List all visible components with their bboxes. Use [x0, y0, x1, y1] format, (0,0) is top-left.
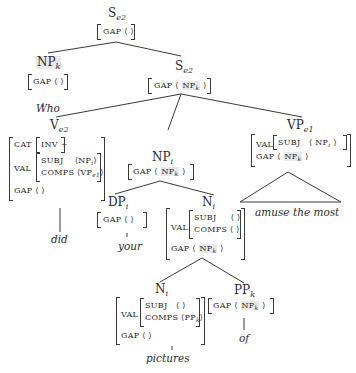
avm-bracket-left [128, 164, 132, 180]
vp-gap: GAP ⟨ NPk ⟩ [256, 151, 309, 162]
v-comps: COMPS ⟨VPe1⟩ [41, 167, 104, 178]
word-pictures: pictures [146, 352, 190, 364]
words-amuse-the-most: amuse the most [255, 206, 339, 218]
word-did: did [51, 233, 68, 245]
word-your: your [118, 240, 142, 252]
node-np-who-label: NPk [36, 56, 61, 69]
avm-bracket-left [97, 212, 101, 228]
avm-bracket-right [201, 297, 205, 345]
vp-subj: SUBJ ⟨ NPi ⟩ [278, 137, 337, 148]
n-low-comps: COMPS ⟨PPk⟩ [145, 312, 203, 323]
node-pp-label: PPk [234, 284, 255, 297]
avm-bracket-right [270, 298, 274, 314]
avm-bracket-left [9, 137, 13, 201]
word-who: Who [36, 102, 60, 114]
avm-bracket-right [190, 164, 194, 180]
avm-bracket-right [196, 298, 200, 327]
avm-bracket-left [36, 153, 40, 182]
avm-bracket-left [251, 134, 255, 167]
v-subj: SUBJ ⟨NPi⟩ [41, 155, 97, 166]
avm-bracket-left [140, 298, 144, 327]
node-dp-gap: GAP ⟨ ⟩ [103, 214, 134, 225]
node-dp-label: DPi [108, 196, 128, 209]
node-s-inner-label: Se2 [175, 60, 193, 73]
node-s-root-gap: GAP ⟨ ⟩ [103, 26, 134, 37]
n-low-val-feature: VAL [121, 309, 138, 320]
node-np-i-gap: GAP ⟨ NPk ⟩ [133, 166, 186, 177]
avm-bracket-left [148, 78, 152, 94]
avm-bracket-left [36, 137, 40, 153]
vp-val-feature: VAL [256, 139, 273, 150]
avm-bracket-left [208, 298, 212, 314]
node-pp-gap: GAP ⟨ NPk ⟩ [213, 300, 266, 311]
avm-bracket-right [101, 137, 105, 201]
n-bar-val-feature: VAL [171, 222, 188, 233]
n-low-subj: SUBJ ⟨ ⟩ [145, 300, 186, 311]
avm-bracket-right [143, 212, 147, 228]
v-gap: GAP ⟨ ⟩ [14, 185, 45, 196]
node-np-i-label: NPi [152, 151, 173, 164]
avm-bracket-right [241, 208, 245, 260]
node-s-root-label: Se2 [108, 7, 126, 20]
avm-bracket-right [61, 137, 65, 153]
avm-bracket-left [97, 24, 101, 40]
avm-bracket-right [347, 134, 351, 167]
n-bar-subj: SUBJ ⟨ ⟩ [194, 212, 240, 223]
node-vp-label: VPe1 [287, 119, 314, 132]
node-s-inner-gap: GAP ⟨ NPk ⟩ [154, 80, 207, 91]
avm-bracket-left [28, 74, 32, 90]
v-val-feature: VAL [14, 163, 31, 174]
node-n-bar-label: Ni [202, 196, 215, 209]
avm-bracket-left [189, 210, 193, 239]
avm-bracket-right [64, 74, 68, 90]
v-cat-feature: CAT [14, 139, 32, 150]
n-low-gap: GAP ⟨ ⟩ [121, 330, 152, 341]
n-bar-gap: GAP ⟨ NPk ⟩ [171, 243, 224, 254]
n-bar-comps: COMPS ⟨ ⟩ [194, 224, 240, 235]
word-of: of [239, 332, 249, 344]
avm-bracket-right [131, 24, 135, 40]
avm-bracket-left [116, 297, 120, 345]
node-n-low-label: Ni [155, 283, 168, 296]
avm-bracket-left [166, 208, 170, 260]
node-np-who-gap: GAP ⟨ ⟩ [33, 76, 64, 87]
node-v-label: Ve2 [50, 119, 69, 132]
avm-bracket-left [273, 135, 277, 150]
avm-bracket-right [207, 78, 211, 94]
